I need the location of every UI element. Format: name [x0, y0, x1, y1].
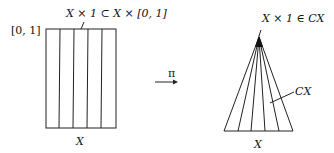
projection-label: π — [168, 67, 175, 80]
fiber-line — [73, 29, 74, 128]
top-edge-label: X × 1 ⊂ X × [0, 1] — [65, 7, 168, 20]
cone-construction-diagram: X × 1 ⊂ X × [0, 1] [0, 1] X π X × 1 ∈ CX… — [0, 0, 334, 153]
arrow-head-icon — [173, 80, 178, 85]
cone-fiber — [251, 37, 259, 131]
top-label-leader — [81, 22, 84, 29]
cone-apex-point — [255, 35, 263, 47]
fiber-line — [87, 29, 88, 128]
fiber-line — [59, 29, 60, 128]
apex-label-leader — [259, 30, 261, 36]
cone-base-label: X — [253, 138, 263, 151]
cone-label: CX — [295, 85, 312, 98]
cylinder — [46, 22, 116, 128]
cylinder-base-label: X — [75, 135, 85, 148]
cone — [224, 30, 294, 131]
fiber-line — [101, 29, 102, 128]
cylinder-outline — [46, 29, 116, 128]
apex-label: X × 1 ∈ CX — [261, 12, 326, 25]
projection-arrow — [155, 80, 178, 85]
interval-label: [0, 1] — [11, 24, 41, 37]
